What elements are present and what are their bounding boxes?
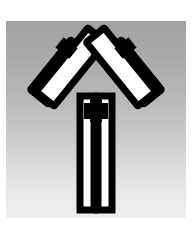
antibody-figure: Antibody (immunoglobulin) schematic bbox=[0, 0, 192, 232]
hinge-region bbox=[84, 100, 108, 122]
antibody-diagram bbox=[0, 0, 192, 232]
